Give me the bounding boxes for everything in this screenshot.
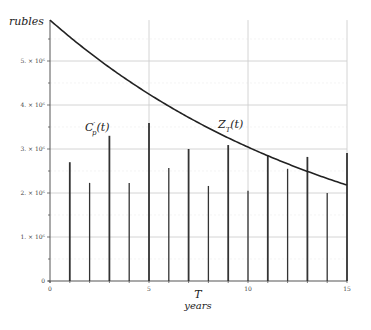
y-tick-label: 5. × 10⁶ [20,57,45,64]
x-tick-label: 15 [343,285,351,292]
line-series-zt [50,20,347,185]
y-tick-label: 1. × 10⁶ [20,233,45,240]
label-zt-main: Z [217,118,226,131]
y-tick-label: 4. × 10⁶ [20,101,45,108]
series-label-cp: C′p(t) [85,121,110,137]
label-zt-tail: (t) [230,118,243,131]
bar-series-cp [70,123,347,281]
x-axis-unit-label: years [183,300,211,311]
series-label-zt: ZT(t) [217,118,243,134]
y-tick-labels: 01. × 10⁶2. × 10⁶3. × 10⁶4. × 10⁶5. × 10… [20,57,45,284]
chart-canvas: 01. × 10⁶2. × 10⁶3. × 10⁶4. × 10⁶5. × 10… [0,0,371,330]
axes [47,20,347,283]
x-tick-label: 10 [244,285,252,292]
y-tick-label: 0 [41,277,45,284]
grid-lines [50,20,347,281]
x-tick-label: 0 [48,285,52,292]
y-axis-label: rubles [9,15,44,28]
svg-text:C′p(t): C′p(t) [85,121,110,137]
label-cp-prime: ′ [93,121,95,129]
label-cp-tail: (t) [97,121,110,134]
svg-text:ZT(t): ZT(t) [217,118,243,134]
y-tick-label: 3. × 10⁶ [20,145,45,152]
x-tick-label: 5 [147,285,151,292]
y-tick-label: 2. × 10⁶ [20,189,45,196]
